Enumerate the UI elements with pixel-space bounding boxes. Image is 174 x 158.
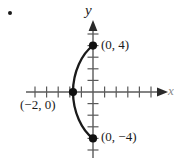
x-axis-arrowhead (157, 88, 168, 97)
x-axis-label: x (168, 84, 174, 97)
y-axis-arrowhead (89, 20, 98, 31)
point-marker-neg2-0 (69, 88, 77, 96)
graph-figure: y x (0, 4) (−2, 0) (0, −4) (0, 0, 174, 158)
point-label-bottom: (0, −4) (101, 130, 137, 143)
coordinate-plot (0, 0, 174, 158)
y-axis-label: y (85, 3, 92, 18)
point-marker-0-4 (89, 42, 97, 50)
point-label-top: (0, 4) (101, 38, 129, 51)
point-label-vertex: (−2, 0) (20, 98, 56, 111)
point-marker-0-neg4 (89, 134, 97, 142)
